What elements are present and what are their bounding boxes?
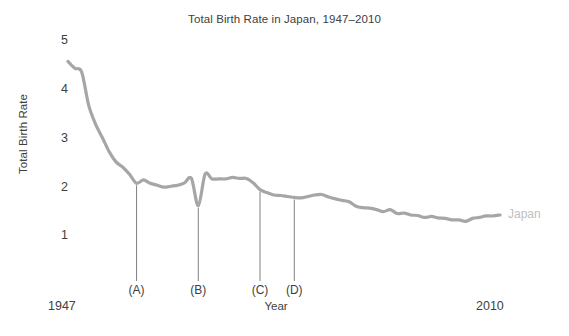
annotation-label-d: (D) bbox=[274, 283, 314, 297]
series-line-japan bbox=[68, 61, 500, 221]
chart-figure: Total Birth Rate in Japan, 1947–2010 Tot… bbox=[0, 0, 569, 336]
annotation-label-a: (A) bbox=[117, 283, 157, 297]
annotation-label-b: (B) bbox=[178, 283, 218, 297]
x-axis-end-label: 2010 bbox=[476, 299, 504, 313]
x-axis-title: Year bbox=[236, 300, 316, 312]
series-label-japan: Japan bbox=[508, 207, 541, 221]
annotation-lines bbox=[137, 185, 295, 281]
x-axis-start-label: 1947 bbox=[48, 299, 76, 313]
